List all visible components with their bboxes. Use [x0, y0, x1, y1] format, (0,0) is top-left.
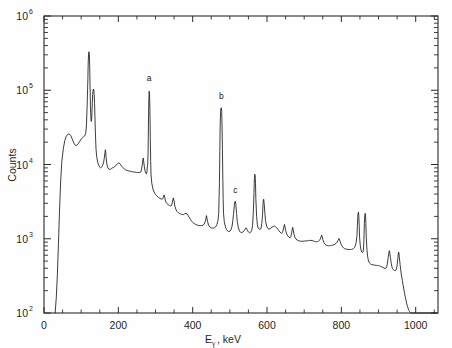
y-axis-tick-labels: 102103104105106 — [16, 8, 33, 319]
y-axis-minor-ticks — [44, 19, 438, 290]
x-axis-title: E γ , keV — [205, 333, 241, 348]
y-tick-label-base: 10 — [16, 159, 28, 171]
x-axis-tick-labels: 02004006008001000 — [41, 319, 427, 331]
x-axis-title-main: E — [205, 333, 212, 345]
y-axis-title: Counts — [6, 148, 18, 181]
x-tick-label: 200 — [110, 319, 128, 331]
x-tick-label: 0 — [41, 319, 47, 331]
x-tick-label: 400 — [184, 319, 202, 331]
peak-label-a: a — [147, 73, 152, 83]
spectrum-chart: 02004006008001000 102103104105106 abc Co… — [0, 0, 452, 348]
peak-label-b: b — [219, 91, 224, 101]
y-tick-label-exponent: 4 — [29, 157, 33, 164]
y-tick-label-exponent: 6 — [29, 8, 33, 15]
y-tick-label-base: 10 — [16, 84, 28, 96]
x-tick-label: 800 — [333, 319, 351, 331]
y-tick-label-base: 10 — [16, 233, 28, 245]
spectrum-data-curve — [55, 52, 436, 313]
y-tick-label-base: 10 — [16, 307, 28, 319]
x-axis-title-unit: , keV — [217, 333, 241, 345]
figure-root: 02004006008001000 102103104105106 abc Co… — [0, 0, 452, 348]
x-axis-major-ticks — [44, 16, 416, 313]
y-tick-label-exponent: 3 — [29, 231, 33, 238]
peak-label-c: c — [233, 185, 238, 195]
x-tick-label: 1000 — [404, 319, 428, 331]
y-tick-label-exponent: 2 — [29, 305, 33, 312]
x-tick-label: 600 — [258, 319, 276, 331]
y-tick-label-base: 10 — [16, 10, 28, 22]
y-tick-label-exponent: 5 — [29, 82, 33, 89]
x-axis-minor-ticks — [63, 16, 435, 313]
x-axis-title-subscript: γ — [211, 339, 216, 348]
peak-annotation-group: abc — [147, 73, 238, 195]
